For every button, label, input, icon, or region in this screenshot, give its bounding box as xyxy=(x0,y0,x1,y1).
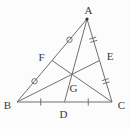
point-label-B: B xyxy=(4,99,11,111)
point-label-E: E xyxy=(107,50,114,62)
geometry-diagram: ABCDEFG xyxy=(0,0,131,129)
point-label-A: A xyxy=(85,4,93,16)
point-label-C: C xyxy=(118,99,125,111)
vertex-dot-A xyxy=(85,17,88,20)
point-label-D: D xyxy=(60,108,68,120)
triangle-median-diagram-svg: ABCDEFG xyxy=(0,0,131,129)
point-label-F: F xyxy=(38,51,44,63)
point-label-G: G xyxy=(70,82,78,94)
median-CF xyxy=(52,61,112,103)
median-BE xyxy=(17,61,100,103)
